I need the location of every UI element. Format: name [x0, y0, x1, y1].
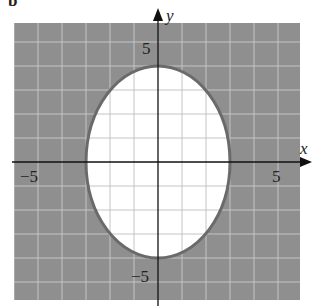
- y-axis-arrow-icon: [153, 8, 163, 21]
- y-tick-label-pos5: 5: [142, 40, 151, 57]
- y-axis-label: y: [166, 7, 174, 24]
- x-axis-arrow-icon: [300, 157, 312, 167]
- x-tick-label-neg5: −5: [20, 168, 38, 185]
- y-tick-label-neg5: −5: [131, 268, 149, 285]
- x-axis-label: x: [300, 140, 308, 157]
- region-plot: [0, 0, 315, 306]
- x-tick-label-pos5: 5: [272, 168, 281, 185]
- figure-label: b: [8, 0, 17, 9]
